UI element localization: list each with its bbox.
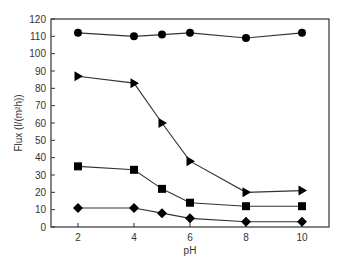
plot-frame — [51, 19, 329, 227]
diamond-marker — [129, 203, 139, 213]
square-marker — [242, 202, 250, 210]
circle-marker — [242, 34, 250, 42]
y-tick-label: 100 — [29, 48, 46, 59]
diamond-marker — [73, 203, 83, 213]
circle-marker — [186, 29, 194, 37]
triangle-right-marker — [187, 156, 196, 166]
square-marker — [158, 185, 166, 193]
square-marker — [186, 199, 194, 207]
y-tick-label: 50 — [35, 135, 47, 146]
x-tick-label: 2 — [75, 232, 81, 243]
plot-area-border — [51, 19, 329, 227]
x-axis-label: pH — [184, 245, 197, 256]
series-triangle — [75, 71, 308, 197]
x-tick-label: 4 — [131, 232, 137, 243]
x-tick-label: 6 — [187, 232, 193, 243]
y-tick-label: 90 — [35, 66, 47, 77]
triangle-right-marker — [299, 186, 308, 196]
triangle-right-marker — [243, 187, 252, 197]
circle-marker — [74, 29, 82, 37]
y-tick-label: 0 — [40, 222, 46, 233]
y-tick-label: 30 — [35, 170, 47, 181]
circle-marker — [298, 29, 306, 37]
diamond-marker — [241, 217, 251, 227]
y-axis-label: Flux (l/(m²h)) — [13, 94, 24, 151]
series-line — [78, 76, 302, 192]
x-tick-label: 10 — [296, 232, 308, 243]
y-tick-label: 60 — [35, 118, 47, 129]
square-marker — [74, 162, 82, 170]
flux-vs-ph-chart: 0102030405060708090100110120 246810 pH F… — [0, 0, 347, 265]
y-tick-label: 120 — [29, 14, 46, 25]
x-tick-label: 8 — [243, 232, 249, 243]
triangle-right-marker — [131, 78, 140, 88]
diamond-marker — [297, 217, 307, 227]
diamond-marker — [185, 213, 195, 223]
triangle-right-marker — [75, 71, 84, 81]
y-tick-label: 10 — [35, 204, 47, 215]
data-series — [73, 29, 307, 227]
triangle-right-marker — [159, 118, 168, 128]
square-marker — [130, 166, 138, 174]
y-tick-label: 70 — [35, 100, 47, 111]
circle-marker — [158, 31, 166, 39]
series-circle — [74, 29, 306, 42]
y-tick-label: 110 — [30, 31, 46, 42]
x-axis-ticks: 246810 — [75, 223, 308, 243]
y-tick-label: 80 — [35, 83, 47, 94]
square-marker — [298, 202, 306, 210]
y-tick-label: 20 — [35, 187, 47, 198]
diamond-marker — [157, 208, 167, 218]
y-tick-label: 40 — [35, 152, 47, 163]
circle-marker — [130, 32, 138, 40]
series-square — [74, 162, 306, 210]
